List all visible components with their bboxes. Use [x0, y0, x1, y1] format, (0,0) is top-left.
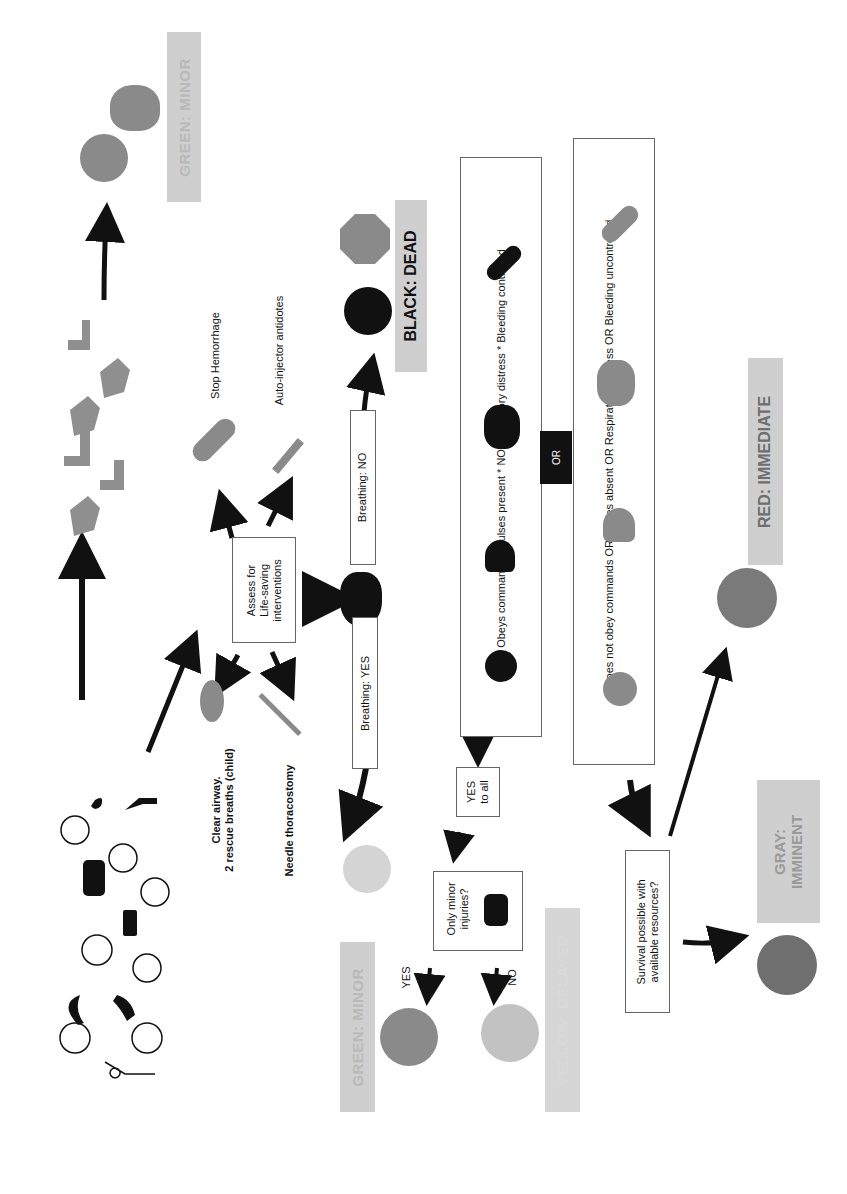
- triage-label-green-minor-bottom: GREEN: MINOR: [340, 942, 375, 1112]
- gun-icon: [123, 910, 137, 936]
- fallen-person-icon: [105, 1062, 155, 1078]
- foot-icon: [100, 460, 124, 490]
- smiley-icon: [109, 844, 137, 872]
- car-crash-icon: [83, 860, 105, 896]
- smiley-icon: [60, 1023, 90, 1053]
- tree-icon: [110, 85, 160, 131]
- lungs-icon: [484, 405, 520, 449]
- brain-icon: [485, 650, 517, 682]
- brain-icon: [603, 672, 637, 706]
- gray-neutral-face-icon: [757, 935, 817, 995]
- stop-hemorrhage-text: Stop Hemorrhage: [205, 300, 225, 410]
- fallen-person-icon: [125, 798, 157, 810]
- wave-icon: [68, 995, 84, 1025]
- arrow-assess-to-needle: [272, 652, 286, 683]
- green-happy-face-icon: [380, 1008, 438, 1066]
- minor-yes-text: YES: [398, 962, 414, 992]
- arrow-assess-to-injector: [268, 494, 284, 526]
- arrow-negative-to-survival: [630, 780, 640, 816]
- yellow-sad-face-icon: [481, 1004, 539, 1062]
- no-symbol-icon: [340, 214, 390, 264]
- lips-icon: [200, 680, 224, 722]
- triage-label-gray-imminent: GRAY: IMMINENT: [757, 780, 820, 923]
- smiley-icon: [133, 954, 161, 982]
- happy-face-icon: [80, 134, 128, 182]
- triage-label-black-dead: BLACK: DEAD: [395, 200, 427, 372]
- walking-wounded-icons: [60, 320, 150, 545]
- arrow-no-to-dead: [364, 372, 370, 412]
- arrow-crowd-to-assess: [148, 648, 190, 752]
- injured-person-icon: [484, 894, 508, 926]
- arrow-yes-to-face: [352, 768, 366, 820]
- needle-thoracostomy-text: Needle thoracostomy: [280, 755, 300, 885]
- smiley-icon: [132, 1023, 162, 1053]
- minor-injuries-box: Only minor injuries?: [433, 871, 523, 951]
- clear-airway-text: Clear airway. 2 rescue breaths (child): [206, 735, 240, 885]
- minor-no-text: NO: [504, 962, 520, 992]
- foot-icon: [68, 320, 90, 350]
- yellow-face-icon: [343, 845, 391, 893]
- auto-injector-text: Auto-injector antidotes: [270, 275, 290, 425]
- arrow-yes-to-minor: [456, 832, 459, 848]
- arrow-minor-yes: [428, 968, 430, 990]
- triage-label-red-immediate: RED: IMMEDIATE: [748, 358, 783, 565]
- heart-pulse-icon: [485, 540, 515, 572]
- triage-label-green-minor-top: GREEN: MINOR: [167, 32, 201, 202]
- lungs-icon: [597, 360, 635, 406]
- foot-icon: [64, 430, 90, 466]
- breathing-yes-box: Breathing: YES: [352, 617, 378, 769]
- arrow-assess-to-lips: [224, 655, 238, 680]
- arrow-walking-to-green: [104, 222, 106, 300]
- smiley-icon: [61, 816, 89, 844]
- hand-icon: [70, 496, 100, 536]
- arrow-survival-to-red: [670, 662, 722, 836]
- dead-face-icon: [344, 287, 392, 335]
- smiley-icon: [141, 878, 169, 906]
- arrow-survival-to-gray: [683, 940, 730, 943]
- tornado-icon: [113, 995, 135, 1021]
- arrow-assess-to-bandage: [224, 508, 232, 538]
- triage-label-yellow-delayed: YELLOW: DELAYED: [545, 908, 580, 1112]
- assess-life-saving-box: Assess for Life-saving interventions: [232, 537, 296, 643]
- red-distressed-face-icon: [717, 568, 777, 628]
- smiley-icon: [82, 935, 112, 965]
- fire-icon: [91, 798, 102, 809]
- arrow-minor-no: [495, 968, 497, 990]
- hand-icon: [100, 358, 130, 398]
- survival-question-box: Survival possible with available resourc…: [625, 850, 670, 1013]
- heart-pulse-icon: [603, 508, 635, 542]
- or-badge: OR: [540, 431, 572, 484]
- breathing-no-box: Breathing: NO: [350, 410, 376, 565]
- yes-to-all-box: YES to all: [456, 767, 500, 817]
- casualty-crowd: [55, 800, 175, 1180]
